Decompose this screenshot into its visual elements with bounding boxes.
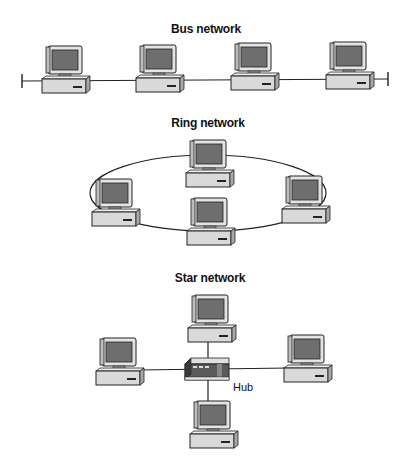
network-hub-icon — [185, 358, 229, 380]
desktop-computer-icon — [186, 140, 234, 187]
desktop-computer-icon — [326, 42, 374, 89]
ring-network — [90, 140, 330, 245]
desktop-computer-icon — [190, 401, 238, 448]
network-topologies-diagram — [0, 0, 413, 466]
desktop-computer-icon — [42, 46, 90, 93]
hub-label: Hub — [233, 381, 253, 393]
bus-network-title: Bus network — [171, 22, 241, 36]
desktop-computer-icon — [92, 179, 140, 226]
desktop-computer-icon — [187, 198, 235, 245]
desktop-computer-icon — [188, 295, 236, 342]
desktop-computer-icon — [231, 43, 279, 90]
desktop-computer-icon — [96, 338, 144, 385]
star-network-title: Star network — [175, 271, 245, 285]
ring-network-title: Ring network — [171, 116, 245, 130]
star-network — [96, 295, 332, 448]
desktop-computer-icon — [284, 335, 332, 382]
desktop-computer-icon — [136, 45, 184, 92]
bus-network — [22, 42, 388, 93]
